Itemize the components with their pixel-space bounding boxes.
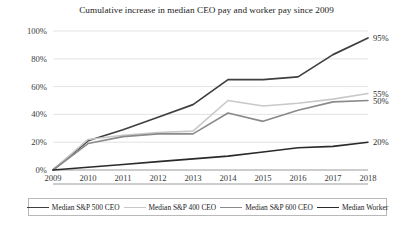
data-series-lines bbox=[53, 38, 368, 170]
legend-item[interactable]: Median S&P 500 CEO bbox=[25, 203, 122, 212]
x-axis-tick-label: 2016 bbox=[289, 173, 307, 183]
x-axis-tick-label: 2018 bbox=[359, 173, 376, 183]
y-axis-tick-label: 60% bbox=[31, 82, 47, 92]
x-axis-tick-label: 2014 bbox=[219, 173, 237, 183]
legend-swatch-icon bbox=[124, 207, 146, 208]
y-axis-tick-label: 40% bbox=[31, 109, 47, 119]
series-line bbox=[53, 101, 368, 171]
y-axis-tick-label: 80% bbox=[31, 54, 47, 64]
chart-plot-area: 0%20%40%60%80%100% 200920102011201220132… bbox=[0, 0, 413, 225]
x-axis-tick-labels: 2009201020112012201320142015201620172018 bbox=[44, 173, 376, 183]
legend-label: Median S&P 400 CEO bbox=[149, 203, 217, 212]
series-line bbox=[53, 38, 368, 170]
x-axis-tick-label: 2011 bbox=[115, 173, 132, 183]
legend-label: Median S&P 500 CEO bbox=[52, 203, 120, 212]
chart-legend: Median S&P 500 CEOMedian S&P 400 CEOMedi… bbox=[28, 198, 387, 216]
y-axis-tick-label: 100% bbox=[27, 26, 47, 36]
x-axis-tick-label: 2015 bbox=[254, 173, 271, 183]
series-end-label: 20% bbox=[373, 137, 389, 147]
series-end-label: 50% bbox=[373, 96, 389, 106]
x-axis-tick-label: 2012 bbox=[149, 173, 166, 183]
series-end-labels: 95%55%50%20% bbox=[373, 33, 389, 147]
legend-item[interactable]: Median S&P 600 CEO bbox=[218, 203, 315, 212]
series-line bbox=[53, 142, 368, 170]
x-axis-tick-label: 2009 bbox=[44, 173, 61, 183]
x-axis-tick-label: 2010 bbox=[79, 173, 96, 183]
legend-swatch-icon bbox=[220, 207, 242, 208]
x-axis-tick-label: 2017 bbox=[324, 173, 342, 183]
legend-swatch-icon bbox=[27, 207, 49, 208]
legend-swatch-icon bbox=[317, 207, 339, 208]
legend-item[interactable]: Median Worker bbox=[315, 203, 390, 212]
y-axis-tick-labels: 0%20%40%60%80%100% bbox=[27, 26, 47, 175]
y-axis-tick-label: 20% bbox=[31, 137, 47, 147]
series-end-label: 95% bbox=[373, 33, 389, 43]
chart-container: Cumulative increase in median CEO pay an… bbox=[0, 0, 413, 225]
legend-label: Median S&P 600 CEO bbox=[245, 203, 313, 212]
legend-item[interactable]: Median S&P 400 CEO bbox=[122, 203, 219, 212]
gridlines bbox=[53, 31, 368, 184]
legend-label: Median Worker bbox=[342, 203, 388, 212]
x-axis-tick-label: 2013 bbox=[184, 173, 201, 183]
